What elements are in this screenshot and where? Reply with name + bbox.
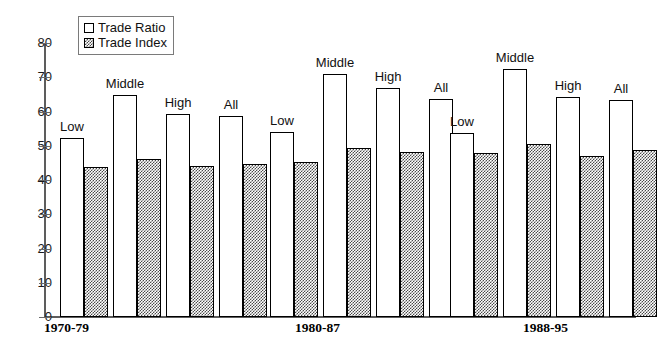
hatched-square-icon	[84, 38, 94, 48]
bar-trade-ratio	[503, 69, 527, 317]
bar-trade-ratio	[270, 132, 294, 317]
bar-trade-index	[84, 167, 108, 317]
bar-trade-ratio	[609, 100, 633, 317]
bar-category-label: Middle	[489, 51, 541, 65]
bar-category-label: High	[362, 70, 414, 84]
bar-category-label: Low	[436, 115, 488, 129]
bar-trade-index	[137, 159, 161, 317]
bar-trade-ratio	[376, 88, 400, 317]
bar-category-label: All	[595, 82, 647, 96]
plot-area: LowMiddleHighAllLowMiddleHighAllLowMiddl…	[44, 43, 636, 317]
bar-trade-index	[190, 166, 214, 317]
bar-trade-ratio	[113, 95, 137, 317]
x-axis-group-label: 1970-79	[44, 320, 89, 336]
bar-trade-index	[580, 156, 604, 317]
bar-trade-ratio	[323, 74, 347, 317]
bar-trade-index	[474, 153, 498, 317]
bar-category-label: Low	[46, 120, 98, 134]
bar-trade-ratio	[450, 133, 474, 317]
legend-item-trade-index: Trade Index	[84, 35, 167, 50]
x-axis-group-label: 1980-87	[295, 320, 340, 336]
bar-trade-ratio	[166, 114, 190, 317]
bar-trade-index	[400, 152, 424, 317]
bar-category-label: Middle	[99, 77, 151, 91]
bar-category-label: All	[415, 81, 467, 95]
bar-trade-ratio	[556, 97, 580, 317]
bar-category-label: Middle	[309, 56, 361, 70]
bar-category-label: All	[205, 98, 257, 112]
bar-category-label: Low	[256, 114, 308, 128]
x-axis-group-label: 1988-95	[523, 320, 568, 336]
chart-legend: Trade Ratio Trade Index	[78, 16, 174, 55]
bar-category-label: High	[152, 96, 204, 110]
legend-label-trade-ratio: Trade Ratio	[98, 21, 165, 35]
legend-label-trade-index: Trade Index	[98, 36, 167, 50]
bar-trade-index	[294, 162, 318, 317]
bar-trade-index	[347, 148, 371, 317]
legend-item-trade-ratio: Trade Ratio	[84, 20, 167, 35]
bar-trade-index	[527, 144, 551, 317]
white-square-icon	[84, 23, 94, 33]
y-axis-tick-mark	[39, 317, 51, 318]
bar-trade-ratio	[60, 138, 84, 317]
bar-category-label: High	[542, 79, 594, 93]
bar-trade-index	[243, 164, 267, 317]
bar-trade-ratio	[219, 116, 243, 317]
bar-trade-index	[633, 150, 657, 317]
